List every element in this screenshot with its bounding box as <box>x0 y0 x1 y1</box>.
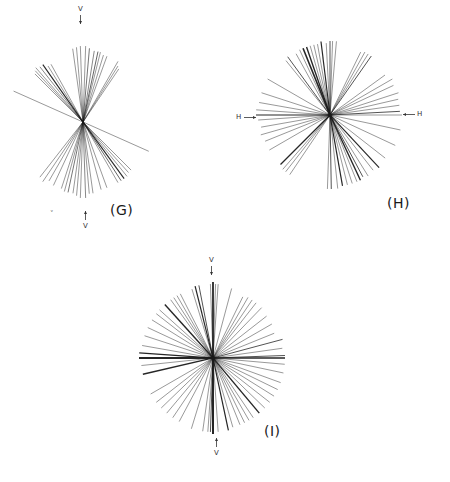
orientation-segment <box>151 357 215 394</box>
axis-arrows <box>79 15 415 447</box>
arrow-icon <box>253 116 256 119</box>
axis-label-g-bottom: V <box>83 222 88 230</box>
panel-label-h: (H) <box>387 195 410 211</box>
orientation-segment <box>82 69 119 123</box>
axis-label-i-top: V <box>209 256 214 264</box>
arrow-icon <box>210 272 213 275</box>
axis-label-h-left: H <box>236 113 241 121</box>
orientation-segment <box>329 54 368 116</box>
orientation-segment <box>329 114 360 181</box>
arrow-icon <box>215 438 218 441</box>
orientation-segment <box>327 114 330 189</box>
orientation-segment <box>141 358 214 366</box>
axis-label-g-top: V <box>78 5 83 13</box>
axis-label-h-right: H <box>417 110 422 118</box>
orientation-segment <box>43 121 84 182</box>
orientation-segment <box>212 358 285 364</box>
orientation-segment <box>212 357 240 425</box>
orientation-segment <box>82 121 124 179</box>
orientation-segment <box>259 102 331 115</box>
rose-diagram-g <box>14 46 149 198</box>
orientation-segment <box>40 67 84 123</box>
orientation-segment <box>296 54 331 116</box>
orientation-segment <box>161 357 214 408</box>
panel-label-g: (G) <box>110 202 133 218</box>
axis-label-i-bottom: V <box>214 449 219 457</box>
orientation-segment <box>167 357 214 413</box>
rose-diagram-i <box>139 282 285 434</box>
stray-mark: ˬ <box>50 204 54 212</box>
orientation-segment <box>256 110 331 115</box>
orientation-segment <box>82 121 127 176</box>
orientation-segment <box>329 85 394 115</box>
orientation-segment <box>212 303 256 359</box>
figure-canvas <box>0 0 450 482</box>
arrow-icon <box>403 113 406 116</box>
rose-diagram-h <box>256 41 402 189</box>
orientation-segment <box>43 65 84 123</box>
panel-label-i: (I) <box>264 423 281 439</box>
orientation-segment <box>286 114 331 172</box>
arrow-icon <box>84 211 87 214</box>
orientation-segment <box>35 74 84 123</box>
arrow-icon <box>79 21 82 24</box>
orientation-segment <box>212 357 253 418</box>
orientation-segment <box>212 316 267 359</box>
orientation-segment <box>329 75 385 116</box>
